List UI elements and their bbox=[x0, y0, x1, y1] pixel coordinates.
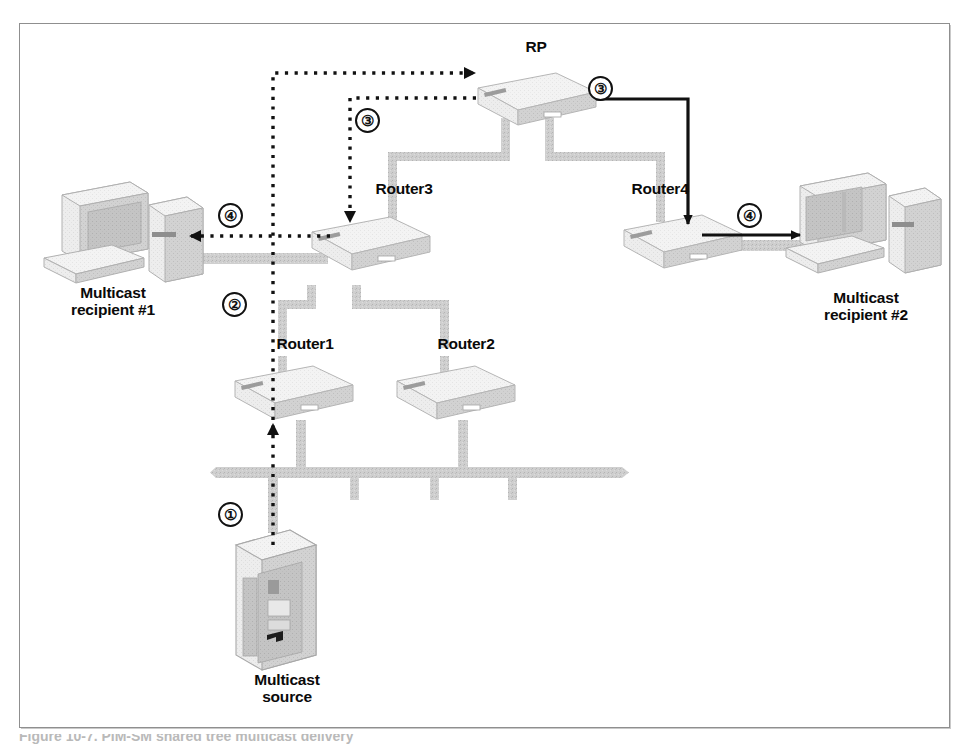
cable-router3-router2-h bbox=[352, 300, 448, 309]
device-source[interactable] bbox=[236, 530, 316, 670]
label-router3: Router3 bbox=[354, 180, 454, 197]
label-router4: Router4 bbox=[610, 180, 710, 197]
device-router1[interactable] bbox=[235, 366, 353, 419]
step-marker-3-left: ③ bbox=[355, 108, 380, 133]
label-rp: RP bbox=[506, 38, 566, 55]
label-router2: Router2 bbox=[416, 335, 516, 352]
step-marker-2: ② bbox=[222, 292, 247, 317]
step-marker-4-left: ④ bbox=[218, 203, 243, 228]
cable-rp-router4-h bbox=[545, 152, 665, 161]
label-router1: Router1 bbox=[255, 335, 355, 352]
device-router3[interactable] bbox=[312, 217, 430, 270]
device-router2[interactable] bbox=[397, 366, 515, 419]
figure-caption: Figure 10-7. PIM-SM shared tree multicas… bbox=[19, 734, 950, 746]
label-recipient2: Multicast recipient #2 bbox=[786, 289, 946, 324]
bus-tap-3 bbox=[430, 478, 439, 500]
flow-arrow-step-3-right bbox=[596, 99, 688, 224]
device-recipient1[interactable] bbox=[44, 182, 203, 283]
step-marker-4-right: ④ bbox=[737, 203, 762, 228]
step-marker-3-right: ③ bbox=[588, 76, 613, 101]
diagram-canvas bbox=[0, 0, 971, 746]
label-source: Multicast source bbox=[207, 671, 367, 706]
device-recipient2[interactable] bbox=[786, 173, 941, 273]
step-marker-1: ① bbox=[218, 502, 243, 527]
cable-router1-drop bbox=[296, 420, 306, 474]
device-router4[interactable] bbox=[624, 215, 742, 268]
device-rp[interactable] bbox=[478, 73, 596, 125]
bus-tap-2 bbox=[350, 478, 359, 500]
figure-root: RP Router3 Router4 Router1 Router2 Multi… bbox=[0, 0, 971, 746]
figure-caption-text: Figure 10-7. PIM-SM shared tree multicas… bbox=[19, 734, 950, 744]
bus-tap-4 bbox=[508, 478, 517, 500]
cable-layer bbox=[168, 118, 847, 533]
cable-router2-drop bbox=[458, 420, 468, 474]
label-recipient1: Multicast recipient #1 bbox=[33, 284, 193, 319]
cable-rp-router3-h bbox=[388, 152, 510, 161]
